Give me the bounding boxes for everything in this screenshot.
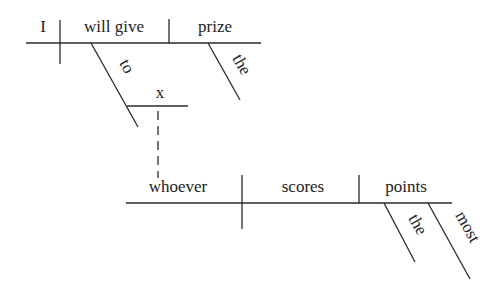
word-subject: I <box>40 17 46 36</box>
sentence-diagram: I will give prize the to x whoever score… <box>0 0 501 294</box>
word-verb: will give <box>84 17 144 36</box>
word-clause-object: points <box>385 177 427 196</box>
word-object-modifier: the <box>229 51 256 78</box>
word-clause-subject: whoever <box>149 177 208 196</box>
word-object: prize <box>198 17 232 36</box>
clause-modifier-slant-1 <box>384 203 415 262</box>
word-clause-modifier-2: most <box>452 208 485 246</box>
word-preposition-object: x <box>156 83 165 102</box>
word-clause-modifier-1: the <box>405 211 432 238</box>
word-preposition: to <box>116 56 139 77</box>
word-clause-verb: scores <box>282 177 324 196</box>
